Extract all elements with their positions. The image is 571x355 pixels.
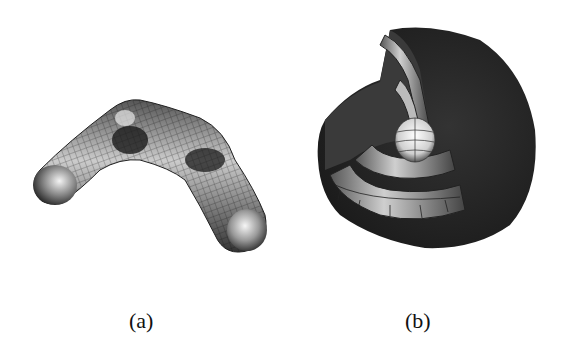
nested-shells-cutaway-icon — [280, 0, 571, 355]
caption-a: (a) — [129, 308, 153, 334]
figure-panel-a: (a) — [0, 0, 290, 355]
figure-panel-b: (b) — [280, 0, 571, 355]
caption-b: (b) — [405, 308, 431, 334]
bent-tube-surface-icon — [0, 0, 290, 355]
